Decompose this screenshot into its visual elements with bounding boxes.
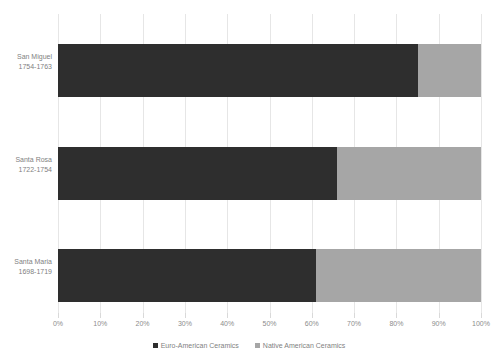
chart-legend: Euro-American Ceramics Native American C… (0, 342, 498, 349)
category-label-san-miguel: San Miguel 1754-1763 (0, 52, 52, 71)
x-axis-tick-label: 50% (250, 320, 290, 327)
x-axis-tick-mark (58, 313, 59, 318)
category-name: Santa Rosa (0, 155, 52, 165)
x-axis-tick-mark (143, 313, 144, 318)
x-axis-tick-label: 20% (123, 320, 163, 327)
bar-segment-euro-american (58, 147, 337, 200)
plot-area (58, 14, 481, 313)
category-period: 1722-1754 (0, 165, 52, 175)
x-axis-tick-mark (354, 313, 355, 318)
category-label-santa-rosa: Santa Rosa 1722-1754 (0, 155, 52, 174)
legend-label: Native American Ceramics (263, 342, 345, 349)
x-axis-tick-mark (481, 313, 482, 318)
x-axis-tick-label: 60% (292, 320, 332, 327)
bar-row (58, 147, 481, 200)
x-axis-tick-mark (312, 313, 313, 318)
legend-item-native-american[interactable]: Native American Ceramics (255, 342, 345, 349)
x-axis-tick-label: 100% (461, 320, 498, 327)
x-axis-tick-mark (270, 313, 271, 318)
legend-label: Euro-American Ceramics (161, 342, 239, 349)
bar-row (58, 44, 481, 97)
category-name: Santa Maria (0, 257, 52, 267)
category-label-santa-maria: Santa Maria 1698-1719 (0, 257, 52, 276)
bar-segment-native-american (316, 249, 481, 302)
x-axis-tick-mark (185, 313, 186, 318)
legend-item-euro-american[interactable]: Euro-American Ceramics (153, 342, 239, 349)
bar-segment-native-american (418, 44, 481, 97)
category-period: 1754-1763 (0, 62, 52, 72)
bar-segment-euro-american (58, 44, 418, 97)
bar-row (58, 249, 481, 302)
legend-swatch-icon (255, 343, 260, 348)
stacked-bar-chart: San Miguel 1754-1763 Santa Rosa 1722-175… (0, 0, 498, 364)
x-axis-tick-label: 70% (334, 320, 374, 327)
x-axis-tick-mark (396, 313, 397, 318)
category-name: San Miguel (0, 52, 52, 62)
x-axis-tick-label: 0% (38, 320, 78, 327)
legend-swatch-icon (153, 343, 158, 348)
x-axis-tick-mark (227, 313, 228, 318)
x-axis-tick-mark (439, 313, 440, 318)
x-axis-tick-label: 30% (165, 320, 205, 327)
bar-segment-native-american (337, 147, 481, 200)
x-axis-tick-label: 90% (419, 320, 459, 327)
bar-segment-euro-american (58, 249, 316, 302)
category-period: 1698-1719 (0, 267, 52, 277)
x-axis-tick-mark (100, 313, 101, 318)
x-axis-tick-label: 10% (80, 320, 120, 327)
x-axis-tick-label: 80% (376, 320, 416, 327)
gridline (481, 14, 482, 313)
x-axis-tick-label: 40% (207, 320, 247, 327)
